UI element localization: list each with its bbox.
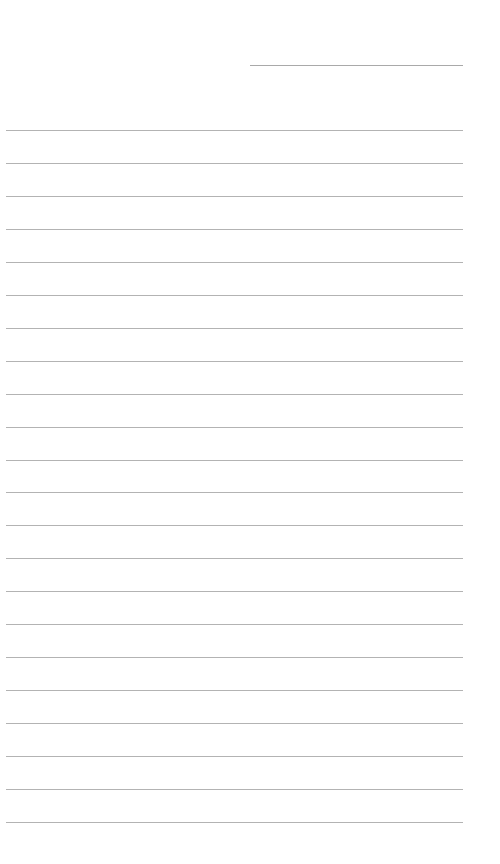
ruled-line	[6, 361, 463, 362]
ruled-line	[6, 163, 463, 164]
ruled-line	[6, 657, 463, 658]
ruled-line	[6, 460, 463, 461]
ruled-line	[6, 822, 463, 823]
ruled-line	[6, 394, 463, 395]
ruled-line	[6, 229, 463, 230]
ruled-line	[6, 262, 463, 263]
ruled-line	[6, 328, 463, 329]
ruled-line	[6, 130, 463, 131]
ruled-line	[6, 525, 463, 526]
ruled-line	[6, 789, 463, 790]
ruled-line	[6, 624, 463, 625]
ruled-line	[6, 558, 463, 559]
ruled-line	[6, 196, 463, 197]
ruled-line	[6, 690, 463, 691]
header-line	[250, 65, 463, 66]
ruled-line	[6, 723, 463, 724]
ruled-line	[6, 591, 463, 592]
ruled-line	[6, 756, 463, 757]
ruled-line	[6, 492, 463, 493]
ruled-line	[6, 295, 463, 296]
ruled-line	[6, 427, 463, 428]
